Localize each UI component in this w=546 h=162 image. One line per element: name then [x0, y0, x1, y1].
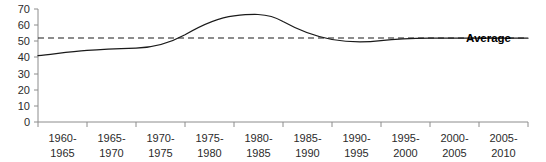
- x-tick-line-1: 2005-: [479, 131, 528, 146]
- y-tick-label: 10: [8, 101, 30, 112]
- average-line-label: Average: [466, 32, 511, 44]
- y-tick-label: 40: [8, 52, 30, 63]
- x-tick-line-2: 1995: [332, 146, 381, 161]
- x-tick-line-2: 1965: [38, 146, 87, 161]
- x-tick-line-1: 1985-: [283, 131, 332, 146]
- x-tick-label-2000-2005: 2000- 2005: [430, 131, 479, 161]
- x-tick-line-1: 1970-: [136, 131, 185, 146]
- x-tick-line-2: 1985: [234, 146, 283, 161]
- x-tick-label-1975-1980: 1975- 1980: [185, 131, 234, 161]
- x-tick-line-1: 1980-: [234, 131, 283, 146]
- line-chart: 70 60 50 40 30 20 10 0 1960- 1965 1965- …: [0, 0, 546, 162]
- y-tick-label: 50: [8, 36, 30, 47]
- x-tick-line-2: 1970: [87, 146, 136, 161]
- y-tick-label: 30: [8, 69, 30, 80]
- x-tick-label-1970-1975: 1970- 1975: [136, 131, 185, 161]
- x-tick-line-2: 2010: [479, 146, 528, 161]
- x-tick-label-2005-2010: 2005- 2010: [479, 131, 528, 161]
- x-tick-line-2: 1980: [185, 146, 234, 161]
- x-tick-line-2: 2005: [430, 146, 479, 161]
- x-tick-label-1965-1970: 1965- 1970: [87, 131, 136, 161]
- x-tick-line-2: 1990: [283, 146, 332, 161]
- y-axis-ticks: [34, 9, 38, 122]
- x-tick-label-1990-1995: 1990- 1995: [332, 131, 381, 161]
- y-tick-label: 60: [8, 20, 30, 31]
- y-tick-label: 70: [8, 4, 30, 15]
- x-tick-line-1: 1990-: [332, 131, 381, 146]
- x-tick-line-1: 1995-: [381, 131, 430, 146]
- x-tick-label-1985-1990: 1985- 1990: [283, 131, 332, 161]
- x-tick-label-1995-2000: 1995- 2000: [381, 131, 430, 161]
- x-tick-line-1: 1960-: [38, 131, 87, 146]
- x-tick-line-1: 1975-: [185, 131, 234, 146]
- x-tick-line-1: 1965-: [87, 131, 136, 146]
- x-tick-line-2: 2000: [381, 146, 430, 161]
- x-tick-label-1960-1965: 1960- 1965: [38, 131, 87, 161]
- y-tick-label: 0: [8, 117, 30, 128]
- x-axis-ticks: [38, 122, 528, 127]
- x-tick-line-2: 1975: [136, 146, 185, 161]
- x-tick-line-1: 2000-: [430, 131, 479, 146]
- y-tick-label: 20: [8, 85, 30, 96]
- x-tick-label-1980-1985: 1980- 1985: [234, 131, 283, 161]
- data-series-line: [38, 14, 528, 55]
